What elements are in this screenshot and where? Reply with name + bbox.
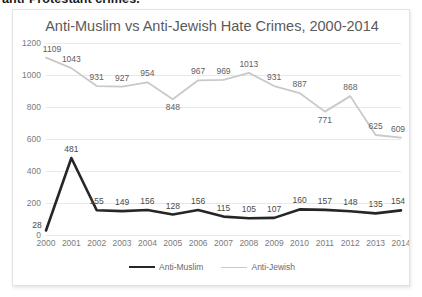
legend-label-anti-jewish: Anti-Jewish [251,262,294,272]
legend-item-anti-muslim[interactable]: Anti-Muslim [129,262,203,272]
data-point-label: 969 [216,66,230,76]
cut-off-sentence: anti-Protestant crimes. [2,0,140,6]
data-point-label: 149 [115,197,129,207]
x-axis-tick-label: 2007 [214,238,233,248]
x-axis-tick-label: 2004 [138,238,157,248]
x-axis-tick-label: 2005 [163,238,182,248]
legend-line-icon-anti-jewish [221,267,247,268]
data-point-label: 1109 [43,44,61,54]
data-point-label: 1043 [62,54,81,64]
page-body-text-cutoff: anti-Protestant crimes. [0,0,422,7]
line-anti-muslim [46,158,401,230]
data-point-label: 156 [191,196,205,206]
x-axis-tick-label: 2003 [113,238,132,248]
data-point-label: 28 [32,220,41,230]
plot-area: 020040060080010001200 284811551491561281… [46,43,401,235]
x-axis-tick-label: 2008 [239,238,258,248]
data-point-label: 115 [217,203,231,213]
data-point-label: 848 [166,102,180,112]
data-point-label: 887 [292,79,306,89]
y-axis-tick-label: 200 [27,198,41,208]
legend-item-anti-jewish[interactable]: Anti-Jewish [221,262,294,272]
chart-object[interactable]: Anti-Muslim vs Anti-Jewish Hate Crimes, … [12,9,410,286]
data-point-label: 609 [391,124,405,134]
data-point-label: 154 [391,196,405,206]
data-point-label: 156 [140,196,154,206]
x-axis-tick-label: 2009 [265,238,284,248]
data-point-label: 868 [343,82,357,92]
data-point-label: 1013 [239,59,258,69]
data-point-label: 148 [343,197,357,207]
data-point-label: 954 [140,68,154,78]
y-axis-tick-label: 600 [27,134,41,144]
chart-title: Anti-Muslim vs Anti-Jewish Hate Crimes, … [13,18,410,34]
x-axis-tick-label: 2010 [290,238,309,248]
x-axis-tick-label: 2011 [316,238,334,248]
data-point-label: 105 [242,204,256,214]
data-point-label: 481 [64,144,78,154]
x-axis-tick-label: 2001 [62,238,81,248]
data-point-label: 931 [90,72,104,82]
data-point-label: 967 [191,66,205,76]
data-point-label: 157 [318,196,332,206]
x-axis-tick-label: 2012 [341,238,360,248]
y-axis-tick-label: 1200 [22,38,41,48]
data-point-label: 160 [292,195,306,205]
legend-label-anti-muslim: Anti-Muslim [159,262,203,272]
data-point-label: 625 [369,121,383,131]
chart-legend[interactable]: Anti-Muslim Anti-Jewish [13,262,410,272]
x-axis-tick-label: 2014 [392,238,410,248]
y-axis-tick-label: 1000 [22,70,41,80]
data-point-label: 107 [267,204,281,214]
data-point-label: 135 [369,199,383,209]
data-point-label: 927 [115,73,129,83]
legend-line-icon-anti-muslim [129,266,155,268]
data-point-label: 155 [90,196,104,206]
x-axis-tick-label: 2013 [366,238,385,248]
x-axis-labels: 2000200120022003200420052006200720082009… [46,238,401,254]
data-point-label: 128 [166,201,180,211]
y-axis-tick-label: 400 [27,166,41,176]
y-axis-tick-label: 800 [27,102,41,112]
x-axis-tick-label: 2006 [189,238,208,248]
data-point-label: 771 [318,115,332,125]
data-point-label: 931 [267,72,281,82]
gridline [46,235,401,236]
x-axis-tick-label: 2002 [87,238,106,248]
x-axis-tick-label: 2000 [37,238,56,248]
